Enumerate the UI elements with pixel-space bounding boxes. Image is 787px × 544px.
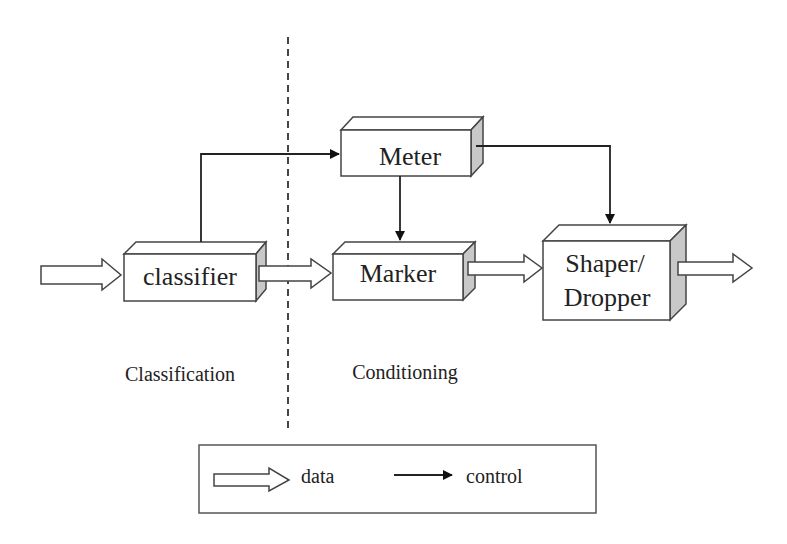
data-arrow-input xyxy=(41,259,121,290)
control-arrow-meter-to-shaper xyxy=(476,146,610,223)
shaper-label: Shaper/ xyxy=(565,249,645,278)
data-arrow-output xyxy=(678,254,752,282)
conditioning-label: Conditioning xyxy=(352,361,458,384)
legend-data-label: data xyxy=(301,465,334,487)
control-arrow-classifier-to-meter xyxy=(201,154,339,242)
legend-control-label: control xyxy=(466,465,523,487)
dropper-label: Dropper xyxy=(564,283,651,312)
data-arrow-classifier-to-marker xyxy=(259,259,331,288)
marker-label: Marker xyxy=(360,259,437,288)
classification-label: Classification xyxy=(125,363,235,385)
data-arrow-marker-to-shaper xyxy=(468,255,542,282)
classifier-label: classifier xyxy=(143,262,237,291)
meter-label: Meter xyxy=(379,142,441,171)
diffserv-diagram: classifier Meter Marker Shaper/ Dropper … xyxy=(0,0,787,544)
